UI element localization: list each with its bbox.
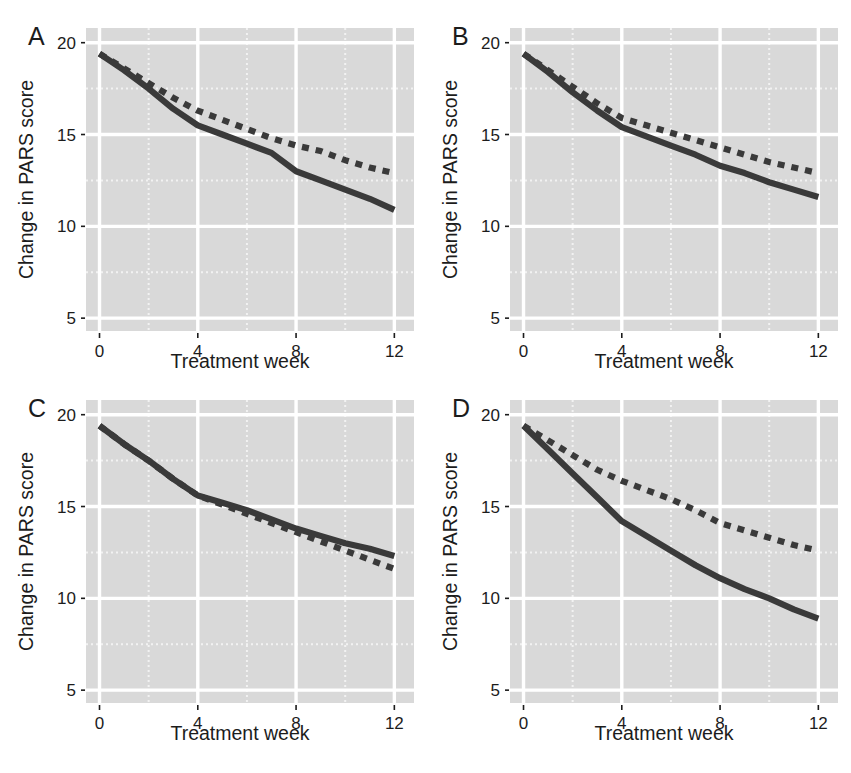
panel-d: D Change in PARS score Treatment week 51… [424, 372, 849, 758]
panel-background [86, 28, 414, 331]
x-tick-label: 8 [291, 714, 300, 733]
y-tick-label: 5 [67, 681, 76, 700]
y-tick-label: 10 [481, 589, 500, 608]
x-tick-label: 0 [519, 714, 528, 733]
x-tick-label: 8 [291, 342, 300, 361]
x-tick-label: 12 [385, 714, 404, 733]
figure-panel-grid: A Change in PARS score Treatment week 51… [0, 0, 851, 773]
y-tick-label: 15 [57, 498, 76, 517]
x-tick-label: 12 [809, 714, 828, 733]
x-tick-label: 8 [715, 714, 724, 733]
y-tick-label: 5 [491, 681, 500, 700]
x-tick-label: 12 [385, 342, 404, 361]
panel-c: C Change in PARS score Treatment week 51… [0, 372, 425, 758]
plot-area-c: 510152004812 [0, 372, 425, 758]
panel-a: A Change in PARS score Treatment week 51… [0, 0, 425, 386]
x-tick-label: 12 [809, 342, 828, 361]
y-tick-label: 5 [67, 309, 76, 328]
x-tick-label: 0 [95, 342, 104, 361]
x-tick-label: 8 [715, 342, 724, 361]
y-tick-label: 20 [481, 406, 500, 425]
y-tick-label: 15 [481, 498, 500, 517]
y-tick-label: 15 [481, 126, 500, 145]
x-tick-label: 0 [95, 714, 104, 733]
y-tick-label: 5 [491, 309, 500, 328]
y-tick-label: 15 [57, 126, 76, 145]
x-tick-label: 0 [519, 342, 528, 361]
plot-area-b: 510152004812 [424, 0, 849, 386]
plot-area-d: 510152004812 [424, 372, 849, 758]
y-tick-label: 20 [57, 406, 76, 425]
plot-area-a: 510152004812 [0, 0, 425, 386]
x-tick-label: 4 [617, 714, 626, 733]
x-tick-label: 4 [193, 714, 202, 733]
y-tick-label: 20 [481, 34, 500, 53]
panel-background [86, 400, 414, 703]
y-tick-label: 20 [57, 34, 76, 53]
panel-b: B Change in PARS score Treatment week 51… [424, 0, 849, 386]
y-tick-label: 10 [481, 217, 500, 236]
y-tick-label: 10 [57, 589, 76, 608]
x-tick-label: 4 [617, 342, 626, 361]
y-tick-label: 10 [57, 217, 76, 236]
panel-background [510, 28, 838, 331]
x-tick-label: 4 [193, 342, 202, 361]
